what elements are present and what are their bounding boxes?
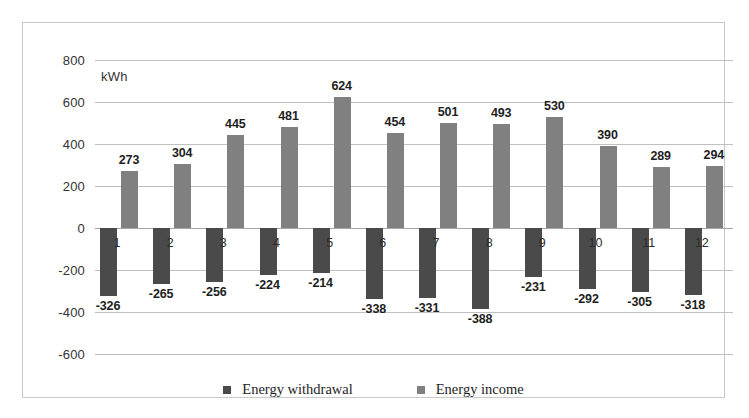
bar-group: 493-3888: [467, 60, 520, 354]
data-label-energy-withdrawal: -265: [149, 287, 174, 301]
x-axis-tick-label: 3: [220, 236, 227, 250]
bar-energy-withdrawal[interactable]: [313, 228, 330, 273]
bar-energy-income[interactable]: [493, 124, 510, 228]
data-label-energy-income: 501: [438, 105, 459, 119]
data-label-energy-income: 454: [385, 115, 406, 129]
chart-legend: Energy withdrawalEnergy income: [23, 381, 724, 398]
bar-energy-income[interactable]: [440, 123, 457, 228]
y-axis-tick-label: 600: [63, 95, 85, 110]
data-label-energy-income: 304: [172, 146, 193, 160]
data-label-energy-withdrawal: -388: [468, 312, 493, 326]
bar-energy-income[interactable]: [334, 97, 351, 228]
bar-energy-income[interactable]: [546, 117, 563, 228]
bar-group: 501-3317: [414, 60, 467, 354]
y-axis-tick-label: -400: [58, 305, 85, 320]
data-label-energy-income: 273: [119, 153, 140, 167]
data-label-energy-income: 390: [597, 128, 618, 142]
bar-energy-income[interactable]: [174, 164, 191, 228]
chart-container: 8006004002000-200-400-600 kWh 273-326130…: [22, 22, 725, 398]
data-label-energy-income: 624: [331, 79, 352, 93]
data-label-energy-withdrawal: -318: [681, 298, 706, 312]
data-label-energy-income: 445: [225, 117, 246, 131]
data-label-energy-withdrawal: -256: [202, 285, 227, 299]
x-axis-tick-label: 5: [326, 236, 333, 250]
data-label-energy-withdrawal: -224: [255, 278, 280, 292]
bar-energy-income[interactable]: [227, 135, 244, 228]
bar-energy-income[interactable]: [121, 171, 138, 228]
gridline: [95, 354, 733, 355]
x-axis-tick-label: 10: [589, 236, 603, 250]
plot-area: 273-3261304-2652445-2563481-2244624-2145…: [95, 60, 733, 354]
data-label-energy-withdrawal: -292: [574, 292, 599, 306]
y-axis: 8006004002000-200-400-600: [23, 23, 95, 399]
x-axis-tick-label: 7: [433, 236, 440, 250]
bar-group: 624-2145: [308, 60, 361, 354]
bar-group: 530-2319: [520, 60, 573, 354]
bar-group: 289-30511: [627, 60, 680, 354]
legend-label: Energy income: [436, 381, 524, 398]
bar-energy-income[interactable]: [706, 166, 723, 228]
bar-group: 390-29210: [574, 60, 627, 354]
bar-group: 304-2652: [148, 60, 201, 354]
x-axis-tick-label: 12: [695, 236, 709, 250]
legend-item[interactable]: Energy income: [417, 381, 524, 398]
x-axis-tick-label: 1: [114, 236, 121, 250]
y-axis-tick-label: 400: [63, 137, 85, 152]
data-label-energy-withdrawal: -326: [96, 299, 121, 313]
x-axis-tick-label: 11: [642, 236, 655, 250]
x-axis-tick-label: 8: [486, 236, 493, 250]
y-axis-tick-label: -600: [58, 347, 85, 362]
y-axis-tick-label: -200: [58, 263, 85, 278]
data-label-energy-income: 294: [704, 148, 725, 162]
data-label-energy-withdrawal: -305: [627, 295, 652, 309]
bar-group: 294-31812: [680, 60, 733, 354]
bar-group: 454-3386: [361, 60, 414, 354]
data-label-energy-withdrawal: -338: [362, 302, 387, 316]
y-axis-tick-label: 0: [78, 221, 85, 236]
legend-swatch-icon: [417, 386, 425, 394]
legend-item[interactable]: Energy withdrawal: [223, 381, 352, 398]
x-axis-tick-label: 2: [167, 236, 174, 250]
data-label-energy-income: 481: [278, 109, 299, 123]
legend-label: Energy withdrawal: [242, 381, 352, 398]
data-label-energy-income: 530: [544, 99, 565, 113]
data-label-energy-income: 289: [650, 149, 671, 163]
y-axis-tick-label: 200: [63, 179, 85, 194]
data-label-energy-income: 493: [491, 106, 512, 120]
bar-group: 445-2563: [201, 60, 254, 354]
bar-group: 273-3261: [95, 60, 148, 354]
bar-energy-income[interactable]: [281, 127, 298, 228]
y-axis-tick-label: 800: [63, 53, 85, 68]
bar-group: 481-2244: [255, 60, 308, 354]
data-label-energy-withdrawal: -331: [415, 301, 440, 315]
bar-energy-income[interactable]: [653, 167, 670, 228]
data-label-energy-withdrawal: -214: [308, 276, 333, 290]
x-axis-tick-label: 6: [379, 236, 386, 250]
bar-energy-income[interactable]: [600, 146, 617, 228]
x-axis-tick-label: 4: [273, 236, 280, 250]
legend-swatch-icon: [223, 386, 231, 394]
data-label-energy-withdrawal: -231: [521, 280, 546, 294]
bar-energy-income[interactable]: [387, 133, 404, 228]
x-axis-tick-label: 9: [539, 236, 546, 250]
